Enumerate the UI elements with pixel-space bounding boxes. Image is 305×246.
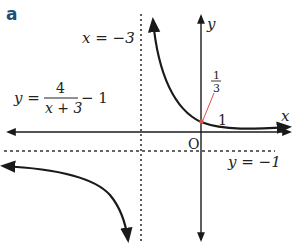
- function-equation: y = 4 x + 3 − 1: [13, 80, 108, 116]
- graph: a x = −3 y = −1 y x O 1 1 3 y = 4 x + 3 …: [0, 0, 305, 246]
- y-axis-label: y: [206, 15, 216, 33]
- equation-numerator: 4: [56, 80, 65, 96]
- x-axis-label: x: [281, 107, 290, 125]
- panel-label: a: [6, 4, 17, 24]
- y-intercept-label: 1 3: [211, 69, 221, 95]
- horizontal-asymptote-label: y = −1: [227, 153, 281, 171]
- vertical-asymptote-label: x = −3: [82, 29, 135, 47]
- origin-label: O: [188, 136, 199, 152]
- y-intercept-numerator: 1: [213, 69, 220, 82]
- curve-lower-branch: [3, 166, 128, 240]
- x-intercept-label: 1: [218, 112, 227, 128]
- y-intercept-denominator: 3: [213, 82, 220, 95]
- y-intercept-point: [199, 119, 203, 123]
- equation-lhs: y =: [13, 89, 40, 107]
- equation-denominator: x + 3: [45, 100, 83, 116]
- equation-tail: − 1: [81, 89, 108, 107]
- y-intercept-pointer: [203, 93, 214, 120]
